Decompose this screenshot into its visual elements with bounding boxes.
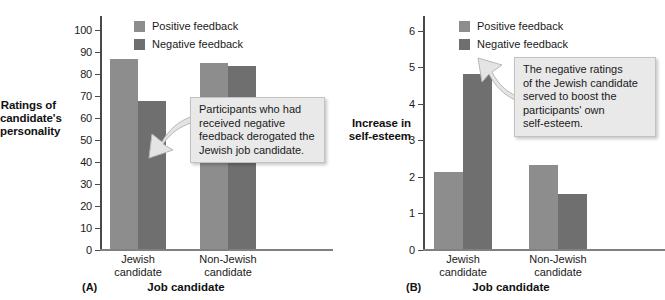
panel-a-tick	[95, 250, 100, 251]
panel-b-tag: (B)	[406, 281, 421, 293]
legend-item-negative: Negative feedback	[134, 36, 243, 52]
panel-b-y-axis-title-line2: self-esteem	[333, 130, 411, 143]
panel-a-y-axis-title-line1: Ratings of	[0, 99, 56, 112]
panel-b-callout-line1: The negative ratings	[523, 63, 648, 77]
panel-a-category-nonjewish: Non-Jewish candidate	[188, 253, 268, 279]
panel-a-tag: (A)	[82, 281, 97, 293]
panel-a-x-axis	[100, 249, 333, 251]
panel-a-category-jewish-line2: candidate	[98, 266, 178, 279]
panel-a: 0 10 20 30 40 50 60 70 80 90 100 Positiv…	[0, 0, 333, 300]
panel-b-bar-nonjewish-negative	[558, 194, 587, 249]
panel-b-y-axis-title-line1: Increase in	[333, 117, 411, 130]
panel-a-category-jewish: Jewish candidate	[98, 253, 178, 279]
panel-b-bar-jewish-negative	[463, 74, 492, 249]
legend-swatch-negative-icon	[134, 39, 145, 50]
panel-a-category-nonjewish-line2: candidate	[188, 266, 268, 279]
panel-b-category-jewish-line1: Jewish	[423, 253, 503, 266]
panel-a-bar-jewish-negative	[138, 101, 166, 249]
legend-swatch-positive-icon	[459, 21, 470, 32]
panel-b-category-nonjewish-line2: candidate	[518, 266, 598, 279]
panel-a-y-axis-title-line3: personality	[0, 125, 56, 138]
legend-label-negative: Negative feedback	[477, 38, 568, 50]
panel-a-category-jewish-line1: Jewish	[98, 253, 178, 266]
panel-b-bar-jewish-positive	[434, 172, 463, 249]
panel-a-bar-jewish-positive	[110, 59, 138, 249]
panel-b-category-jewish-line2: candidate	[423, 266, 503, 279]
panel-b-category-nonjewish-line1: Non-Jewish	[518, 253, 598, 266]
legend-item-negative: Negative feedback	[459, 36, 568, 52]
panel-a-callout-line3: feedback derogated the	[199, 130, 317, 144]
legend-label-positive: Positive feedback	[477, 20, 563, 32]
legend-swatch-positive-icon	[134, 21, 145, 32]
panel-a-callout-line2: received negative	[199, 117, 317, 131]
panel-b-callout-line3: served to boost the	[523, 90, 648, 104]
panel-b-callout-line2: of the Jewish candidate	[523, 77, 648, 91]
legend-label-positive: Positive feedback	[152, 20, 238, 32]
panel-b-callout-line4: participants' own	[523, 104, 648, 118]
legend-item-positive: Positive feedback	[459, 18, 568, 34]
legend-swatch-negative-icon	[459, 39, 470, 50]
panel-b-x-axis-title: Job candidate	[441, 281, 581, 293]
panel-b-legend: Positive feedback Negative feedback	[459, 18, 568, 54]
panel-b: 0 1 2 3 4 5 6 Positive feedback Negative…	[333, 0, 665, 300]
legend-label-negative: Negative feedback	[152, 38, 243, 50]
panel-a-y-axis-title-line2: candidate's	[0, 112, 56, 125]
panel-a-x-axis-title: Job candidate	[116, 281, 256, 293]
figure-bar-charts: 0 10 20 30 40 50 60 70 80 90 100 Positiv…	[0, 0, 665, 300]
panel-a-category-nonjewish-line1: Non-Jewish	[188, 253, 268, 266]
panel-b-callout: The negative ratings of the Jewish candi…	[514, 57, 656, 137]
panel-a-callout-line4: Jewish job candidate.	[199, 144, 317, 158]
panel-b-tick	[418, 250, 423, 251]
panel-b-category-jewish: Jewish candidate	[423, 253, 503, 279]
panel-b-bar-nonjewish-positive	[529, 165, 558, 249]
panel-a-callout: Participants who had received negative f…	[190, 97, 325, 163]
panel-b-x-axis	[423, 249, 665, 251]
panel-b-y-axis-title: Increase in self-esteem	[333, 117, 411, 143]
panel-a-callout-line1: Participants who had	[199, 103, 317, 117]
legend-item-positive: Positive feedback	[134, 18, 243, 34]
panel-b-callout-line5: self-esteem.	[523, 117, 648, 131]
panel-a-legend: Positive feedback Negative feedback	[134, 18, 243, 54]
panel-a-y-axis-title: Ratings of candidate's personality	[0, 99, 56, 138]
panel-b-category-nonjewish: Non-Jewish candidate	[518, 253, 598, 279]
